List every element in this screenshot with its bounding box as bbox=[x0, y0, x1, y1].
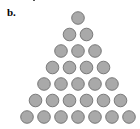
circle-row-5-item-4 bbox=[89, 78, 102, 91]
circle-row-7-item-7 bbox=[123, 111, 136, 124]
circle-row-4-item-4 bbox=[97, 61, 110, 74]
circle-row-7-item-3 bbox=[55, 111, 68, 124]
circle-row-5-item-2 bbox=[55, 78, 68, 91]
circle-row-7-item-1 bbox=[21, 111, 34, 124]
circle-row-2-item-2 bbox=[80, 28, 93, 41]
circle-row-6-item-3 bbox=[63, 94, 76, 107]
circle-row-4-item-1 bbox=[46, 61, 59, 74]
circle-row-6-item-4 bbox=[80, 94, 93, 107]
circle-row-4-item-2 bbox=[63, 61, 76, 74]
circle-row-6-item-1 bbox=[29, 94, 42, 107]
circle-row-5-item-1 bbox=[38, 78, 51, 91]
circle-row-3-item-1 bbox=[55, 45, 68, 58]
circle-row-7-item-2 bbox=[38, 111, 51, 124]
circle-row-4-item-3 bbox=[80, 61, 93, 74]
circle-row-7-item-4 bbox=[72, 111, 85, 124]
circle-row-6-item-5 bbox=[97, 94, 110, 107]
circle-row-6-item-6 bbox=[114, 94, 127, 107]
circle-row-3-item-3 bbox=[89, 45, 102, 58]
circle-triangle-diagram bbox=[0, 0, 140, 129]
circle-row-5-item-3 bbox=[72, 78, 85, 91]
circle-row-3-item-2 bbox=[72, 45, 85, 58]
circle-row-5-item-5 bbox=[106, 78, 119, 91]
circle-row-6-item-2 bbox=[46, 94, 59, 107]
figure-canvas: b. bbox=[0, 0, 140, 129]
circle-row-1-item-1 bbox=[72, 12, 85, 25]
circle-row-7-item-6 bbox=[106, 111, 119, 124]
circle-row-7-item-5 bbox=[89, 111, 102, 124]
circle-row-2-item-1 bbox=[63, 28, 76, 41]
